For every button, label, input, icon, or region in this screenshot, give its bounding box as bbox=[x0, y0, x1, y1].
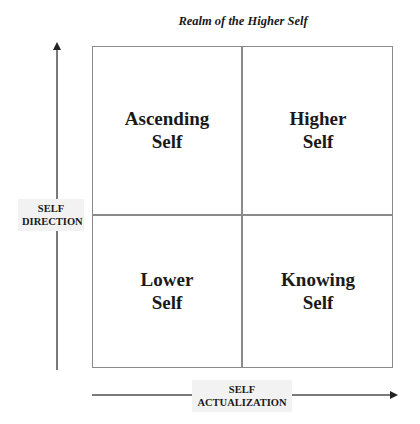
y-axis-label-line1: SELF bbox=[22, 202, 80, 215]
quadrant-knowing-self: Knowing Self bbox=[243, 216, 393, 367]
quadrant-label-line1: Ascending bbox=[125, 108, 209, 131]
quadrant-label-line1: Knowing bbox=[281, 269, 355, 292]
quadrant-label-line2: Self bbox=[281, 292, 355, 315]
y-axis-label-line2: DIRECTION bbox=[22, 215, 80, 228]
x-axis-label-line2: ACTUALIZATION bbox=[196, 396, 288, 409]
quadrant-higher-self: Higher Self bbox=[243, 47, 393, 214]
diagram-title: Realm of the Higher Self bbox=[92, 14, 394, 29]
y-axis-arrow-icon bbox=[53, 42, 61, 50]
quadrant-label-line1: Higher bbox=[290, 108, 347, 131]
x-axis-label: SELF ACTUALIZATION bbox=[192, 380, 292, 412]
x-axis-arrow-icon bbox=[390, 391, 398, 399]
quadrant-grid: Ascending Self Higher Self Lower Self Kn… bbox=[92, 46, 393, 368]
x-axis-label-line1: SELF bbox=[196, 383, 288, 396]
quadrant-label-line2: Self bbox=[290, 131, 347, 154]
quadrant-label-line1: Lower bbox=[141, 269, 194, 292]
quadrant-label-line2: Self bbox=[125, 131, 209, 154]
quadrant-lower-self: Lower Self bbox=[93, 216, 241, 367]
quadrant-ascending-self: Ascending Self bbox=[93, 47, 241, 214]
y-axis-label: SELF DIRECTION bbox=[18, 199, 84, 231]
quadrant-label-line2: Self bbox=[141, 292, 194, 315]
